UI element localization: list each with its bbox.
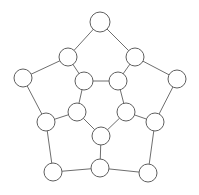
graph-edge (135, 115, 147, 119)
graph-edge (55, 115, 69, 119)
graph-edge (47, 131, 52, 163)
graph-edge (159, 87, 173, 114)
graph-edge (62, 169, 91, 171)
graph-node[interactable] (146, 113, 164, 131)
graph-edge (74, 29, 93, 50)
graph-canvas (0, 0, 199, 195)
graph-edge (83, 118, 94, 129)
graph-edge (143, 61, 169, 75)
graph-node[interactable] (37, 113, 55, 131)
graph-node[interactable] (59, 48, 77, 66)
graph-node[interactable] (126, 48, 144, 66)
graph-edge (149, 131, 154, 164)
graph-edge (31, 61, 60, 74)
graph-edge (107, 29, 129, 51)
graph-figure (0, 0, 199, 195)
graph-node[interactable] (90, 12, 110, 32)
graph-edge (27, 86, 42, 114)
graph-edge (79, 90, 82, 103)
graph-edge (73, 64, 79, 73)
graph-node[interactable] (168, 70, 186, 88)
graph-edge (109, 169, 139, 172)
graph-node[interactable] (117, 103, 135, 121)
graph-node[interactable] (75, 72, 93, 90)
graph-edge (120, 90, 124, 104)
graph-node[interactable] (14, 69, 32, 87)
graph-node[interactable] (109, 72, 127, 90)
graph-node[interactable] (68, 103, 86, 121)
graph-node[interactable] (91, 159, 109, 177)
graph-edge (123, 64, 130, 73)
graph-node[interactable] (92, 127, 110, 145)
graph-node[interactable] (139, 164, 157, 182)
edge-layer (27, 29, 173, 172)
graph-edge (107, 118, 119, 130)
graph-node[interactable] (44, 163, 62, 181)
